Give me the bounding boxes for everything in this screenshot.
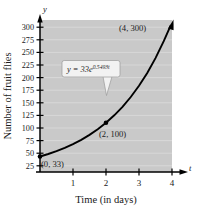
annotation-label-point-2-100: (2, 100) — [99, 129, 126, 139]
y-tick-label: 225 — [22, 61, 34, 70]
equation-body: y = 33e — [66, 65, 93, 74]
y-axis-variable-label: y — [42, 4, 47, 14]
annotation-label-point-0-33: (0, 33) — [41, 159, 64, 169]
x-tick-label: 1 — [71, 178, 76, 188]
y-tick-label: 100 — [22, 124, 34, 133]
x-tick-label: 4 — [170, 178, 175, 188]
y-tick-label: 175 — [22, 86, 34, 95]
annotation-label-point-4-300: (4, 300) — [119, 23, 146, 33]
y-tick-label: 75 — [26, 137, 34, 146]
x-tick-label: 2 — [104, 178, 109, 188]
x-axis-title: Time (in days) — [75, 194, 137, 206]
equation-exponent: 0.5493t — [93, 64, 110, 70]
y-tick-label: 250 — [22, 48, 34, 57]
x-axis-variable-label: t — [189, 163, 192, 173]
y-tick-label: 200 — [22, 74, 34, 83]
data-point-marker — [104, 121, 109, 126]
x-tick-label: 3 — [137, 178, 142, 188]
y-tick-label: 150 — [22, 99, 34, 108]
y-tick-label: 50 — [26, 149, 34, 158]
y-tick-label: 275 — [22, 36, 34, 45]
y-tick-label: 125 — [22, 111, 34, 120]
y-tick-label: 25 — [26, 162, 34, 171]
y-tick-label: 300 — [22, 23, 34, 32]
fruit-flies-exponential-growth-chart: y t 300 275 250 225 200 175 150 125 100 … — [0, 0, 197, 211]
y-axis-title: Number of fruit flies — [2, 52, 13, 139]
